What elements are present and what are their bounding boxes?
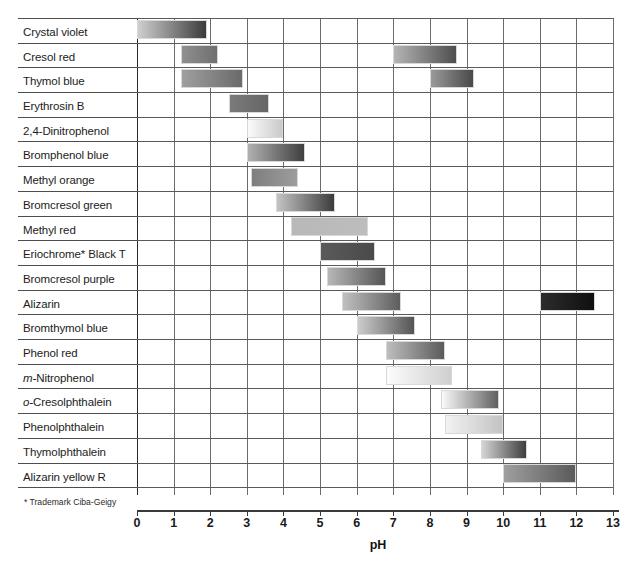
indicator-label: Methyl red	[23, 217, 76, 243]
row-divider	[137, 265, 613, 266]
indicator-label: Phenol red	[23, 340, 78, 366]
row-divider	[137, 92, 613, 93]
x-tick-label: 3	[235, 516, 259, 530]
indicator-label: Bromphenol blue	[23, 142, 108, 168]
row-divider	[137, 487, 613, 488]
row-divider	[137, 216, 613, 217]
ph-range-bar	[247, 143, 306, 162]
x-tick-label: 12	[564, 516, 588, 530]
x-tick-label: 9	[455, 516, 479, 530]
row-divider	[137, 43, 613, 44]
indicator-label: Alizarin	[23, 291, 60, 317]
x-tick-label: 2	[198, 516, 222, 530]
indicator-label: o-Cresolphthalein	[23, 389, 111, 415]
row-divider	[137, 413, 613, 414]
ph-range-bar	[386, 366, 452, 385]
ph-range-bar	[441, 390, 500, 409]
indicator-label-column: Crystal violetCresol redThymol blueEryth…	[18, 18, 137, 510]
ph-range-bar	[445, 415, 504, 434]
ph-range-bar	[393, 45, 457, 64]
ph-range-bar	[320, 242, 375, 261]
x-tick-label: 10	[491, 516, 515, 530]
row-divider	[137, 463, 613, 464]
x-tick-label: 11	[528, 516, 552, 530]
gridline-ph-13	[613, 18, 614, 495]
x-tick-label: 6	[345, 516, 369, 530]
gridline-ph-12	[576, 18, 577, 495]
row-divider	[137, 18, 613, 19]
gridline-ph-0	[137, 18, 138, 495]
row-divider	[137, 314, 613, 315]
gridline-ph-7	[393, 18, 394, 495]
trademark-footnote: * Trademark Ciba-Geigy	[24, 497, 116, 507]
indicator-label: Methyl orange	[23, 167, 95, 193]
ph-range-bar	[430, 69, 474, 88]
indicator-label: Alizarin yellow R	[23, 464, 106, 490]
gridline-ph-10	[503, 18, 504, 495]
row-divider	[137, 290, 613, 291]
gridline-ph-3	[247, 18, 248, 495]
ph-range-bar	[251, 168, 299, 187]
indicator-label: Cresol red	[23, 44, 75, 70]
x-axis-title: pH	[137, 538, 619, 552]
gridline-ph-4	[283, 18, 284, 495]
ph-range-bar	[137, 20, 207, 39]
ph-range-bar	[327, 267, 386, 286]
ph-range-bar	[291, 217, 368, 236]
indicator-label: Thymol blue	[23, 68, 85, 94]
gridline-ph-2	[210, 18, 211, 495]
ph-range-bar	[229, 94, 269, 113]
ph-range-bar	[181, 69, 243, 88]
indicator-label: Phenolphthalein	[23, 414, 104, 440]
row-divider	[137, 166, 613, 167]
row-divider	[137, 141, 613, 142]
gridline-ph-11	[540, 18, 541, 495]
ph-indicator-range-chart: Crystal violetCresol redThymol blueEryth…	[0, 0, 644, 574]
indicator-label: Bromthymol blue	[23, 315, 108, 341]
ph-range-bar	[386, 341, 445, 360]
indicator-label: Thymolphthalein	[23, 439, 106, 465]
row-divider	[137, 364, 613, 365]
indicator-label: Crystal violet	[23, 19, 87, 45]
row-divider	[137, 388, 613, 389]
x-tick-label: 13	[601, 516, 625, 530]
ph-range-bar	[276, 193, 335, 212]
ph-range-bar	[357, 316, 416, 335]
x-tick-label: 8	[418, 516, 442, 530]
indicator-label: m-Nitrophenol	[23, 365, 94, 391]
ph-range-bar	[503, 464, 576, 483]
indicator-label: Erythrosin B	[23, 93, 84, 119]
x-tick-label: 5	[308, 516, 332, 530]
ph-range-bar	[481, 440, 527, 459]
plot-area	[137, 18, 613, 510]
indicator-label: Bromcresol green	[23, 192, 112, 218]
row-divider	[137, 117, 613, 118]
x-tick-label: 1	[162, 516, 186, 530]
indicator-label: 2,4-Dinitrophenol	[23, 118, 109, 144]
row-divider	[137, 240, 613, 241]
indicator-label: Bromcresol purple	[23, 266, 115, 292]
x-tick-label: 7	[381, 516, 405, 530]
row-divider	[18, 487, 137, 488]
gridline-ph-1	[174, 18, 175, 495]
ph-range-bar	[247, 119, 284, 138]
ph-range-bar	[181, 45, 218, 64]
gridline-ph-8	[430, 18, 431, 495]
x-tick-label: 4	[271, 516, 295, 530]
ph-range-bar	[342, 292, 401, 311]
indicator-label: Eriochrome* Black T	[23, 241, 126, 267]
row-divider	[137, 191, 613, 192]
row-divider	[137, 438, 613, 439]
x-tick-label: 0	[125, 516, 149, 530]
ph-range-bar	[540, 292, 595, 311]
row-divider	[137, 67, 613, 68]
row-divider	[137, 339, 613, 340]
